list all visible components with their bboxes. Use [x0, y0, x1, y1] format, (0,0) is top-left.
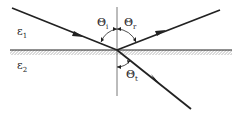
arc-arrow-icon — [117, 65, 121, 69]
incidence-angle-label: Θi — [97, 17, 108, 31]
medium-2-label: ε2 — [17, 60, 27, 74]
transmission-angle-label: Θt — [126, 69, 138, 83]
arc-arrow-icon — [117, 27, 121, 31]
arc-arrow-icon — [113, 27, 117, 31]
reflected-arrow-icon — [155, 30, 166, 36]
medium-1-label: ε1 — [17, 26, 27, 40]
reflection-angle-label: Θr — [124, 17, 136, 31]
incident-arrow-icon — [72, 31, 84, 37]
refraction-diagram — [0, 0, 239, 120]
